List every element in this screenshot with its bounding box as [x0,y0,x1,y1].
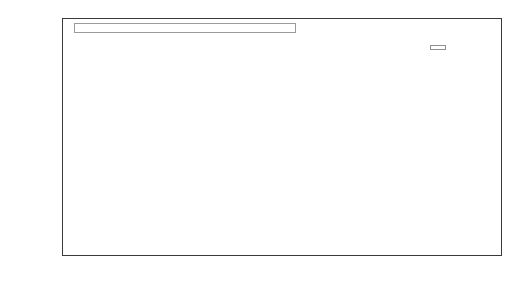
plot-inner [63,19,501,255]
chart-legend [74,23,296,33]
total-callout-box [430,45,446,50]
stacked-areas [63,19,501,255]
plot-area [62,18,502,256]
stacked-area-chart-figure [0,0,513,291]
